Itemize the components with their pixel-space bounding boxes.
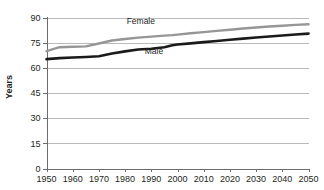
y-tick-label-group: 0153045607590	[30, 13, 40, 174]
ytick-label-0: 0	[35, 164, 40, 174]
ytick-label-75: 75	[30, 38, 40, 48]
x-tick-label-group: 1950196019701980199020002010202020302040…	[36, 174, 318, 184]
ytick-label-45: 45	[30, 88, 40, 98]
xtick-label-2040: 2040	[272, 174, 292, 184]
xtick-label-1960: 1960	[63, 174, 83, 184]
ytick-label-15: 15	[30, 139, 40, 149]
xtick-label-2020: 2020	[220, 174, 240, 184]
y-tickmarks	[43, 19, 47, 170]
xtick-label-1950: 1950	[36, 174, 56, 184]
xtick-label-1970: 1970	[89, 174, 109, 184]
series-annotation-male: Male	[145, 46, 164, 56]
xtick-label-1990: 1990	[141, 174, 161, 184]
xtick-label-2030: 2030	[246, 174, 266, 184]
ytick-label-30: 30	[30, 113, 40, 123]
chart-canvas: 0153045607590 19501960197019801990200020…	[0, 0, 324, 190]
xtick-label-2050: 2050	[298, 174, 318, 184]
data-series-group	[47, 24, 309, 59]
y-axis-title: Years	[4, 75, 14, 99]
xtick-label-2000: 2000	[167, 174, 187, 184]
xtick-label-1980: 1980	[115, 174, 135, 184]
xtick-label-2010: 2010	[194, 174, 214, 184]
ytick-label-90: 90	[30, 13, 40, 23]
ytick-label-60: 60	[30, 63, 40, 73]
life-expectancy-line-chart: 0153045607590 19501960197019801990200020…	[0, 0, 324, 190]
series-annotation-female: Female	[127, 16, 156, 26]
